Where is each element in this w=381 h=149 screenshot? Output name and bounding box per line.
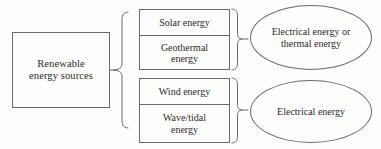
output-ellipse-electrical-or-thermal: Electrical energy or thermal energy xyxy=(250,5,372,70)
source-to-groups-brace-icon xyxy=(113,12,128,128)
group-item-wave-tidal-energy: Wave/tidal energy xyxy=(140,105,229,142)
output-upper-label-line1: Electrical energy or xyxy=(272,26,351,38)
wave-tidal-label-line2: energy xyxy=(163,124,206,136)
group-item-geothermal-energy: Geothermal energy xyxy=(140,36,229,70)
source-box-label-line1: Renewable xyxy=(29,58,93,70)
output-upper-label-stack: Electrical energy or thermal energy xyxy=(272,26,351,50)
lower-group-to-output-brace-icon xyxy=(232,78,242,143)
geothermal-label-stack: Geothermal energy xyxy=(161,42,208,65)
output-ellipse-electrical: Electrical energy xyxy=(250,80,372,143)
source-box-label-line2: energy sources xyxy=(29,70,93,82)
output-lower-label-line1: Electrical energy xyxy=(277,106,345,118)
renewable-energy-sources-box: Renewable energy sources xyxy=(12,32,110,108)
output-lower-label-stack: Electrical energy xyxy=(277,106,345,118)
group-box-upper: Solar energy Geothermal energy xyxy=(139,9,230,70)
group-item-wind-energy: Wind energy xyxy=(140,79,229,105)
source-box-label-stack: Renewable energy sources xyxy=(29,58,93,83)
upper-group-to-output-brace-icon xyxy=(232,9,242,70)
wave-tidal-label-line1: Wave/tidal xyxy=(163,112,206,124)
geothermal-label-line1: Geothermal xyxy=(161,42,208,54)
geothermal-label-line2: energy xyxy=(161,53,208,65)
group-box-lower: Wind energy Wave/tidal energy xyxy=(139,78,230,143)
output-upper-label-line2: thermal energy xyxy=(272,38,351,50)
energy-flow-diagram: Renewable energy sources Solar energy Ge… xyxy=(0,0,381,149)
group-item-solar-energy: Solar energy xyxy=(140,10,229,36)
wave-tidal-label-stack: Wave/tidal energy xyxy=(163,112,206,135)
